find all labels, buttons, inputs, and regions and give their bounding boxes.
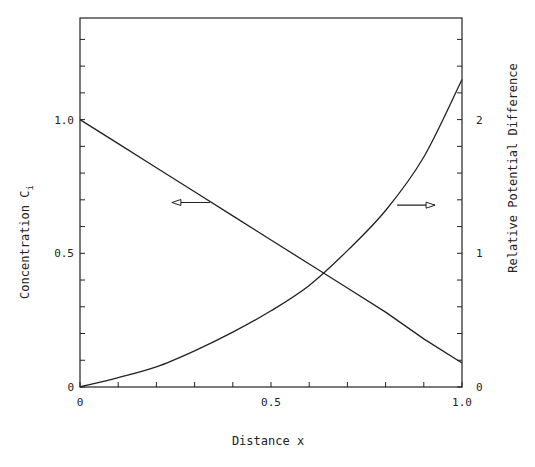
y-left-axis-label-main: Concentration C bbox=[18, 191, 32, 299]
x-tick-label: 0.5 bbox=[261, 396, 281, 409]
y-left-axis-label: Concentration Ci bbox=[18, 185, 35, 299]
y-right-tick-label: 2 bbox=[476, 114, 483, 127]
arrow-right-icon bbox=[426, 202, 435, 208]
y-left-tick-label: 0 bbox=[67, 381, 74, 394]
arrow-left-icon bbox=[172, 200, 181, 206]
x-tick-label: 1.0 bbox=[452, 396, 472, 409]
y-right-axis-ticks: 012 bbox=[457, 39, 483, 394]
series-lines bbox=[80, 80, 462, 388]
y-left-axis-label-subscript: i bbox=[25, 185, 35, 190]
chart: 00.51.0 00.51.0 012 Distance x Concentra… bbox=[0, 0, 535, 467]
x-tick-label: 0 bbox=[77, 396, 84, 409]
annotation-arrows bbox=[172, 200, 435, 209]
y-left-tick-label: 1.0 bbox=[54, 114, 74, 127]
x-axis-ticks: 00.51.0 bbox=[77, 382, 472, 409]
y-left-tick-label: 0.5 bbox=[54, 247, 74, 260]
y-right-tick-label: 0 bbox=[476, 381, 483, 394]
x-axis-label: Distance x bbox=[232, 434, 304, 448]
y-right-tick-label: 1 bbox=[476, 247, 483, 260]
y-right-axis-label: Relative Potential Difference bbox=[506, 63, 520, 273]
plot-frame bbox=[80, 18, 462, 387]
potential-curve bbox=[80, 80, 462, 388]
concentration-line bbox=[80, 120, 462, 363]
